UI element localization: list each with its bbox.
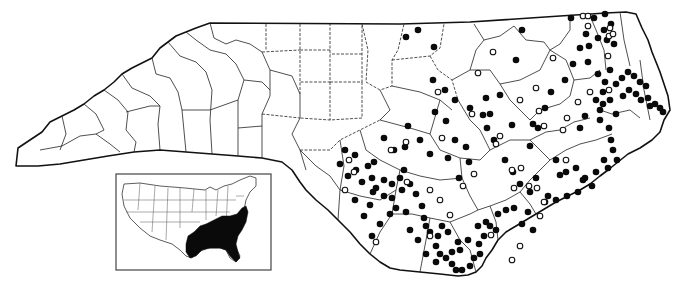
open-record-dot [534, 185, 540, 191]
filled-record-dot [415, 237, 422, 244]
filled-record-dot [631, 73, 638, 80]
filled-record-dot [511, 205, 518, 212]
open-record-dot [490, 49, 496, 55]
filled-record-dot [568, 15, 575, 22]
filled-record-dot [602, 79, 609, 86]
filled-record-dot [577, 45, 584, 52]
filled-record-dot [352, 152, 359, 159]
filled-record-dot [582, 113, 589, 120]
filled-record-dot [619, 75, 626, 82]
open-record-dot [607, 25, 613, 31]
filled-record-dot [502, 157, 509, 164]
filled-record-dot [439, 223, 446, 230]
open-record-dot [493, 141, 499, 147]
filled-record-dot [484, 125, 491, 132]
filled-record-dot [387, 211, 394, 218]
filled-record-dot [591, 15, 598, 22]
filled-record-dot [597, 107, 604, 114]
filled-record-dot [633, 91, 640, 98]
filled-record-dot [389, 195, 396, 202]
open-record-dot [509, 167, 515, 173]
filled-record-dot [427, 151, 434, 158]
open-record-dot [517, 97, 523, 103]
filled-record-dot [553, 157, 560, 164]
filled-record-dot [403, 34, 410, 41]
filled-record-dot [530, 227, 537, 234]
filled-record-dot [475, 223, 482, 230]
filled-record-dot [443, 255, 450, 262]
open-record-dot [587, 89, 593, 95]
filled-record-dot [359, 179, 366, 186]
open-record-dot [550, 55, 556, 61]
filled-record-dot [487, 111, 494, 118]
filled-record-dot [369, 175, 376, 182]
filled-record-dot [481, 233, 488, 240]
filled-record-dot [432, 109, 439, 116]
filled-record-dot [613, 81, 620, 88]
filled-record-dot [645, 95, 652, 102]
open-record-dot [475, 70, 481, 76]
filled-record-dot [600, 101, 607, 108]
open-record-dot [541, 123, 547, 129]
filled-record-dot [407, 227, 414, 234]
filled-record-dot [361, 213, 368, 220]
filled-record-dot [403, 209, 410, 216]
filled-record-dot [589, 183, 596, 190]
filled-record-dot [613, 111, 620, 118]
open-record-dot [447, 212, 453, 218]
filled-record-dot [399, 187, 406, 194]
filled-record-dot [431, 44, 438, 51]
filled-record-dot [455, 239, 462, 246]
filled-record-dot [430, 77, 437, 84]
filled-record-dot [580, 177, 587, 184]
filled-record-dot [433, 259, 440, 266]
filled-record-dot [421, 215, 428, 222]
open-record-dot [437, 197, 443, 203]
filled-record-dot [413, 191, 420, 198]
filled-record-dot [527, 143, 534, 150]
filled-record-dot [595, 71, 602, 78]
filled-record-dot [495, 211, 502, 218]
filled-record-dot [477, 251, 484, 258]
filled-record-dot [381, 193, 388, 200]
open-record-dot [533, 85, 539, 91]
filled-record-dot [602, 11, 609, 18]
open-record-dot [460, 183, 466, 189]
filled-record-dot [457, 247, 464, 254]
open-record-dot [537, 213, 543, 219]
filled-record-dot [345, 173, 352, 180]
filled-record-dot [597, 117, 604, 124]
filled-record-dot [337, 161, 344, 168]
filled-record-dot [405, 123, 412, 130]
open-record-dot [606, 87, 612, 93]
filled-record-dot [373, 185, 380, 192]
open-record-dot [427, 187, 433, 193]
filled-record-dot [415, 27, 422, 34]
filled-record-dot [577, 125, 584, 132]
filled-record-dot [497, 92, 504, 99]
filled-record-dot [449, 261, 456, 268]
open-record-dot [497, 133, 503, 139]
open-record-dot [511, 185, 517, 191]
open-record-dot [403, 139, 409, 145]
filled-record-dot [471, 255, 478, 262]
open-record-dot [509, 257, 515, 263]
open-record-dot [564, 115, 570, 121]
filled-record-dot [467, 263, 474, 270]
open-record-dot [560, 127, 566, 133]
filled-record-dot [517, 181, 524, 188]
filled-record-dot [525, 209, 532, 216]
open-record-dot [427, 233, 433, 239]
open-record-dot [517, 243, 523, 249]
filled-record-dot [401, 167, 408, 174]
filled-record-dot [570, 61, 577, 68]
nc-distribution-map [0, 0, 674, 282]
filled-record-dot [606, 125, 613, 132]
filled-record-dot [483, 95, 490, 102]
filled-record-dot [553, 197, 560, 204]
filled-record-dot [564, 193, 571, 200]
open-record-dot [439, 135, 445, 141]
filled-record-dot [367, 202, 374, 209]
filled-record-dot [519, 27, 526, 34]
open-record-dot [469, 111, 475, 117]
